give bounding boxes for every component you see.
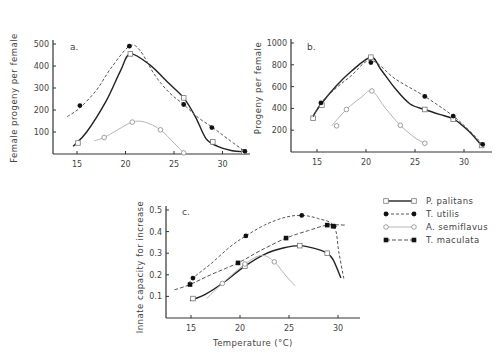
x-tick-label: 25 [410, 158, 420, 167]
x-tick-label: 15 [186, 324, 196, 333]
y-tick-label: 600 [272, 83, 287, 92]
series-a--semiflavus [95, 120, 187, 155]
y-tick-label: 400 [272, 104, 287, 113]
legend-item-p-palitans: P. palitans [382, 196, 502, 209]
y-tick-label: 0.1 [149, 292, 162, 301]
chart-panel-a: 15202530100200300400500 [34, 40, 250, 169]
x-axis-label: Temperature (°C) [213, 338, 293, 348]
legend-label: T. maculata [426, 235, 480, 245]
y-tick-label: 300 [34, 84, 49, 93]
x-tick-label: 30 [333, 324, 343, 333]
series-p--palitans [73, 52, 246, 155]
panel-b-ylabel: Progeny per female [253, 42, 263, 134]
panel-label-b: b. [307, 42, 316, 52]
y-tick-label: 500 [34, 40, 49, 49]
y-tick-label: 800 [272, 61, 287, 70]
y-tick-label: 0.4 [149, 228, 162, 237]
y-tick-label: 0.5 [149, 206, 162, 215]
legend-item-t-utilis: T. utilis [382, 209, 502, 222]
series-p--palitans [311, 55, 484, 148]
series-t--utilis [313, 60, 485, 147]
y-tick-label: 1000 [267, 39, 287, 48]
legend-item-a-semiflavus: A. semiflavus [382, 222, 502, 235]
y-tick-label: 0.2 [149, 271, 162, 280]
y-tick-label: 200 [34, 106, 49, 115]
legend-label: T. utilis [426, 209, 459, 219]
y-tick-label: 200 [272, 126, 287, 135]
x-tick-label: 30 [459, 158, 469, 167]
legend-item-t-maculata: T. maculata [382, 235, 502, 248]
y-tick-label: 100 [34, 128, 49, 137]
x-tick-label: 15 [312, 158, 322, 167]
x-tick-label: 30 [217, 160, 227, 169]
series-t--utilis [67, 44, 247, 154]
chart-panel-b: 152025302004006008001000 [267, 39, 492, 167]
panel-a-ylabel: Female progeny per female [9, 33, 19, 163]
x-tick-label: 20 [361, 158, 371, 167]
x-tick-label: 15 [72, 160, 82, 169]
legend: P. palitans T. utilis A. semiflavus T. m… [382, 196, 502, 248]
x-tick-label: 20 [235, 324, 245, 333]
y-tick-label: 0.3 [149, 249, 162, 258]
x-tick-label: 25 [169, 160, 179, 169]
legend-label: A. semiflavus [426, 222, 488, 232]
panel-label-a: a. [70, 42, 78, 52]
figure: 1520253010020030040050015202530200400600… [0, 0, 503, 362]
panel-label-c: c. [182, 207, 190, 217]
chart-panel-c: 152025300.10.20.30.40.5 [149, 206, 360, 333]
y-tick-label: 400 [34, 62, 49, 71]
panel-c-ylabel: Innate capacity for increase [135, 201, 145, 334]
legend-label: P. palitans [426, 196, 473, 206]
x-tick-label: 25 [284, 324, 294, 333]
x-tick-label: 20 [120, 160, 130, 169]
series-t--utilis [189, 213, 344, 283]
series-a--semiflavus [332, 89, 427, 146]
